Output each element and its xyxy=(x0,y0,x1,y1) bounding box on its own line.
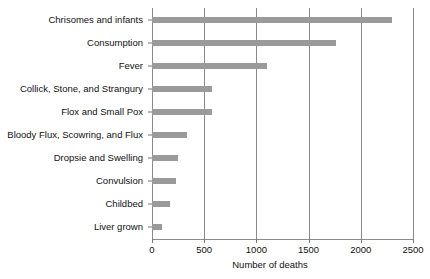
x-axis-line xyxy=(152,239,414,240)
x-axis-tick-label: 2500 xyxy=(402,244,423,255)
x-axis-tick-label: 1500 xyxy=(298,244,319,255)
bar xyxy=(152,109,212,115)
y-axis-tick-mark xyxy=(148,88,152,89)
x-axis-title: Number of deaths xyxy=(0,259,430,270)
bar xyxy=(152,178,176,184)
y-axis-tick-label: Childbed xyxy=(106,199,144,209)
x-axis-tick-label: 500 xyxy=(196,244,212,255)
y-axis-tick-label: Dropsie and Swelling xyxy=(54,153,143,163)
bar xyxy=(152,63,267,69)
y-axis-tick-mark xyxy=(148,42,152,43)
x-axis-tick-mark xyxy=(361,239,362,243)
x-axis-tick-mark xyxy=(204,239,205,243)
gridline xyxy=(413,8,414,239)
y-axis-tick-label: Bloody Flux, Scowring, and Flux xyxy=(7,130,143,140)
y-axis-tick-mark xyxy=(148,204,152,205)
x-axis-tick-mark xyxy=(413,239,414,243)
y-axis-tick-mark xyxy=(148,158,152,159)
y-axis-tick-mark xyxy=(148,19,152,20)
bar xyxy=(152,86,212,92)
y-axis-tick-mark xyxy=(148,65,152,66)
gridline xyxy=(361,8,362,239)
bar xyxy=(152,17,392,23)
y-axis-tick-label: Collick, Stone, and Strangury xyxy=(20,84,143,94)
bar-chart: Chrisomes and infantsConsumptionFeverCol… xyxy=(0,0,430,279)
x-axis-tick-label: 2000 xyxy=(350,244,371,255)
y-axis-tick-label: Consumption xyxy=(87,38,143,48)
y-axis-tick-mark xyxy=(148,111,152,112)
bar xyxy=(152,224,162,230)
y-axis-tick-label: Fever xyxy=(119,61,143,71)
x-axis-tick-label: 0 xyxy=(149,244,154,255)
y-axis-tick-label: Liver grown xyxy=(94,222,143,232)
x-axis-tick-mark xyxy=(256,239,257,243)
bar xyxy=(152,40,336,46)
plot-area xyxy=(152,8,413,239)
y-axis-tick-mark xyxy=(148,135,152,136)
y-axis-labels: Chrisomes and infantsConsumptionFeverCol… xyxy=(0,0,148,279)
y-axis-tick-label: Convulsion xyxy=(96,176,143,186)
bar xyxy=(152,132,187,138)
x-axis-tick-label: 1000 xyxy=(246,244,267,255)
bar xyxy=(152,155,178,161)
x-axis-tick-mark xyxy=(152,239,153,243)
x-axis-tick-mark xyxy=(309,239,310,243)
bar xyxy=(152,201,170,207)
y-axis-tick-label: Chrisomes and infants xyxy=(48,15,143,25)
y-axis-tick-mark xyxy=(148,181,152,182)
y-axis-tick-mark xyxy=(148,227,152,228)
y-axis-tick-label: Flox and Small Pox xyxy=(61,107,143,117)
